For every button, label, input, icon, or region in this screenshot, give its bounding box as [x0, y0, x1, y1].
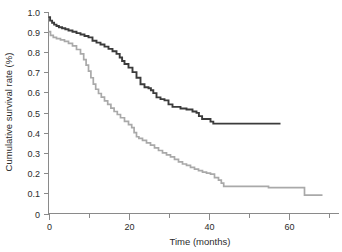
x-tick-labels: 0204060 [47, 222, 295, 232]
x-tick-marks [50, 214, 330, 220]
x-axis-group: 0204060 Time (months) [47, 214, 339, 248]
x-axis-title: Time (months) [170, 236, 231, 247]
x-tick-label: 0 [47, 222, 52, 232]
y-tick-label: 0.7 [27, 68, 40, 78]
y-tick-label: 0.4 [27, 129, 40, 139]
y-tick-labels: 00.10.20.30.40.50.60.70.80.91.0 [27, 8, 40, 220]
y-tick-label: 1.0 [27, 8, 40, 18]
series-upper-curve [49, 17, 281, 123]
y-tick-label: 0.8 [27, 48, 40, 58]
series-group [49, 17, 323, 195]
y-tick-label: 0.5 [27, 109, 40, 119]
y-tick-label: 0 [35, 210, 40, 220]
chart-container: 00.10.20.30.40.50.60.70.80.91.0 Cumulati… [0, 0, 342, 252]
x-tick-label: 20 [124, 222, 134, 232]
y-axis-group: 00.10.20.30.40.50.60.70.80.91.0 Cumulati… [3, 8, 49, 220]
y-tick-label: 0.6 [27, 88, 40, 98]
y-tick-marks [44, 13, 49, 215]
y-tick-label: 0.1 [27, 189, 40, 199]
y-axis-title: Cumulative survival rate (%) [3, 53, 14, 172]
x-tick-label: 40 [204, 222, 214, 232]
y-tick-label: 0.2 [27, 169, 40, 179]
kaplan-meier-chart: 00.10.20.30.40.50.60.70.80.91.0 Cumulati… [0, 0, 342, 252]
y-tick-label: 0.3 [27, 149, 40, 159]
series-lower-curve [49, 32, 323, 195]
x-tick-label: 60 [284, 222, 294, 232]
y-tick-label: 0.9 [27, 28, 40, 38]
